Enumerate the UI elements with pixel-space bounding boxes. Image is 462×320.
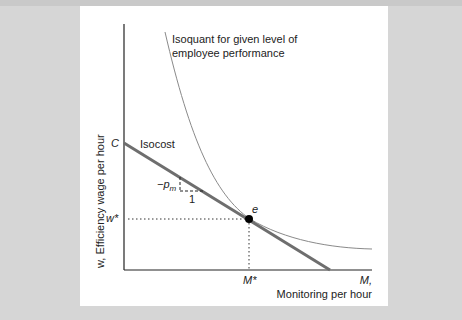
run-label: 1	[189, 193, 195, 205]
equilibrium-point	[245, 215, 253, 223]
isoquant-label-line1: Isoquant for given level of	[172, 33, 298, 45]
w-star-label: w*	[106, 212, 119, 224]
x-axis-label: Monitoring per hour	[277, 288, 373, 300]
isoquant-curve	[165, 32, 372, 249]
slope-label: −pm	[157, 178, 177, 193]
equilibrium-label: e	[252, 203, 258, 215]
isoquant-label-line2: employee performance	[172, 47, 285, 59]
isocost-line	[124, 143, 330, 270]
isocost-label: Isocost	[140, 138, 175, 150]
m-star-label: M*	[243, 274, 257, 286]
intercept-c-label: C	[111, 137, 119, 149]
x-axis-var: M,	[360, 274, 372, 286]
y-axis-label: w, Efficiency wage per hour	[94, 134, 106, 269]
isocost-isoquant-diagram: w, Efficiency wage per hour Isoquant for…	[0, 0, 462, 320]
